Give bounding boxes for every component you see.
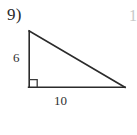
right-triangle-svg (0, 0, 137, 135)
worksheet-problem: 9) 1 6 10 (0, 0, 137, 135)
triangle-hypotenuse (29, 31, 125, 87)
right-triangle-figure (0, 0, 137, 135)
side-label-horizontal-leg: 10 (54, 94, 67, 108)
right-angle-marker-icon (30, 80, 38, 87)
side-label-vertical-leg: 6 (13, 51, 20, 65)
